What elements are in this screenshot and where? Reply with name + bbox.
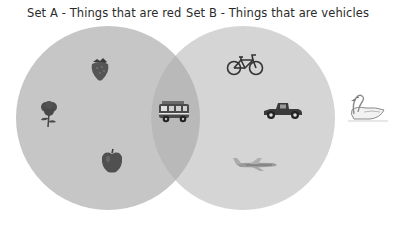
airplane-icon (232, 152, 280, 174)
bicycle-icon (226, 53, 264, 77)
strawberry-icon (89, 56, 111, 82)
rose-icon (38, 100, 60, 128)
car-icon (262, 99, 304, 121)
swan-icon (342, 92, 390, 126)
apple-icon (100, 148, 124, 174)
fire-truck-icon (157, 99, 191, 125)
